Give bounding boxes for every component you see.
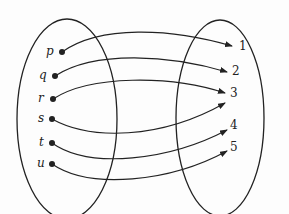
dot-s [49,116,55,122]
label-2: 2 [232,65,240,77]
arrow-q-2 [55,58,227,76]
mapping-diagram: p q r s t u 1 2 3 4 5 [0,0,289,214]
codomain-set-ellipse [176,20,264,214]
label-3: 3 [230,87,238,99]
label-1: 1 [239,40,247,52]
label-p: p [46,45,54,57]
label-u: u [37,157,45,169]
diagram-svg [0,0,289,214]
dot-u [49,161,55,167]
mapping-arrows [52,32,232,179]
label-4: 4 [230,119,238,131]
dot-q [52,73,58,79]
label-t: t [39,136,44,148]
label-5: 5 [230,141,238,153]
arrow-r-3 [53,80,225,99]
dot-t [49,140,55,146]
dot-r [50,96,56,102]
arrow-p-1 [62,32,232,52]
label-s: s [38,112,44,124]
dot-p [59,49,65,55]
label-q: q [39,69,47,81]
arrow-t-4 [52,130,227,159]
label-r: r [38,92,44,104]
arrow-s-3 [52,103,225,133]
